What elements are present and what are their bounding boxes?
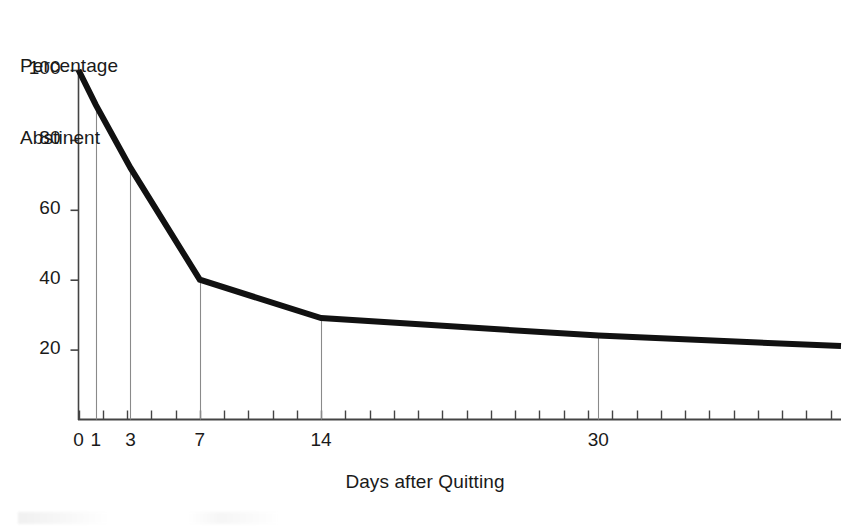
y-axis-tick-label: 100 <box>1 57 61 79</box>
y-axis-tick-label: 20 <box>1 337 61 359</box>
x-axis-tick-label: 3 <box>105 429 155 451</box>
x-axis-tick-marks <box>80 411 832 420</box>
x-axis-title: Days after Quitting <box>0 470 850 494</box>
y-axis-tick-label: 40 <box>1 267 61 289</box>
figure-container: Percentage Abstinent 10080604020 0137143… <box>0 0 850 527</box>
data-drop-lines <box>97 105 599 420</box>
data-series-line <box>79 70 842 346</box>
y-axis-tick-label: 80 <box>1 127 61 149</box>
y-axis-tick-label: 60 <box>1 197 61 219</box>
cropped-caption-fragment <box>18 512 278 524</box>
y-axis-title: Percentage Abstinent <box>20 6 118 198</box>
x-axis-tick-label: 14 <box>296 429 346 451</box>
x-axis-tick-label: 7 <box>175 429 225 451</box>
x-axis-tick-label: 30 <box>573 429 623 451</box>
